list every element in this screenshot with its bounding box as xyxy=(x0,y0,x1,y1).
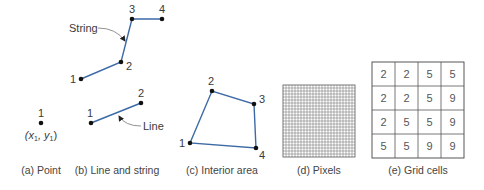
grid-cell: 2 xyxy=(403,92,409,104)
string-leader-arrow xyxy=(98,28,125,41)
spatial-data-types-diagram: 1 (x1, y1) (a) Point 1 2 3 4 String 1 2 … xyxy=(0,0,484,190)
area-vertex-label-1: 1 xyxy=(179,137,185,149)
panel-pixels: (d) Pixels xyxy=(283,85,355,176)
panel-line-and-string: 1 2 3 4 String 1 2 Line (b) Line and str… xyxy=(69,3,165,176)
panel-point: 1 (x1, y1) (a) Point xyxy=(21,107,61,176)
panel-interior-area: 1 2 3 4 (c) Interior area xyxy=(179,75,265,176)
area-vertex-2 xyxy=(210,89,215,94)
line-vertex-2 xyxy=(139,101,144,106)
grid-cell: 5 xyxy=(426,116,432,128)
grid-cell: 9 xyxy=(449,140,455,152)
string-vertex-label-2: 2 xyxy=(126,60,132,72)
caption-point: (a) Point xyxy=(21,164,61,176)
line-label: Line xyxy=(143,120,164,132)
grid-cell: 5 xyxy=(449,68,455,80)
area-vertex-3 xyxy=(252,102,257,107)
string-label: String xyxy=(69,22,98,34)
string-vertex-label-4: 4 xyxy=(159,3,165,15)
line-leader-arrow xyxy=(119,116,141,126)
area-polygon xyxy=(190,91,256,148)
grid-cell: 2 xyxy=(380,116,386,128)
line-segment xyxy=(91,103,141,123)
string-vertex-label-1: 1 xyxy=(70,73,76,85)
pixel-grid xyxy=(283,85,355,157)
grid-cell: 2 xyxy=(380,92,386,104)
caption-interior-area: (c) Interior area xyxy=(186,164,258,176)
area-vertex-label-2: 2 xyxy=(208,75,214,87)
caption-pixels: (d) Pixels xyxy=(297,164,341,176)
grid-cell: 9 xyxy=(426,140,432,152)
caption-grid-cells: (e) Grid cells xyxy=(388,164,448,176)
grid-cell: 9 xyxy=(449,116,455,128)
caption-line-and-string: (b) Line and string xyxy=(75,164,160,176)
grid-cell: 5 xyxy=(403,116,409,128)
string-vertex-4 xyxy=(160,17,165,22)
line-vertex-1 xyxy=(89,121,94,126)
area-vertex-1 xyxy=(188,141,193,146)
area-vertex-label-3: 3 xyxy=(259,93,265,105)
grid-cell: 2 xyxy=(380,68,386,80)
area-vertex-4 xyxy=(254,146,259,151)
string-vertex-2 xyxy=(119,60,124,65)
line-vertex-label-1: 1 xyxy=(87,107,93,119)
string-vertex-label-3: 3 xyxy=(129,3,135,15)
grid-cell: 5 xyxy=(403,140,409,152)
grid-cell: 9 xyxy=(449,92,455,104)
string-vertex-1 xyxy=(79,77,84,82)
grid-cell: 5 xyxy=(426,92,432,104)
grid-cell: 5 xyxy=(426,68,432,80)
grid-cell: 2 xyxy=(403,68,409,80)
string-vertex-3 xyxy=(130,17,135,22)
point-vertex-label: 1 xyxy=(38,107,44,119)
area-vertex-label-4: 4 xyxy=(259,149,265,161)
line-vertex-label-2: 2 xyxy=(138,87,144,99)
point-vertex xyxy=(39,121,44,126)
panel-grid-cells: 2 2 5 5 2 2 5 9 2 5 5 9 5 5 9 9 (e) Grid… xyxy=(372,62,464,176)
point-coordinate-label: (x1, y1) xyxy=(25,129,57,142)
grid-cell: 5 xyxy=(380,140,386,152)
